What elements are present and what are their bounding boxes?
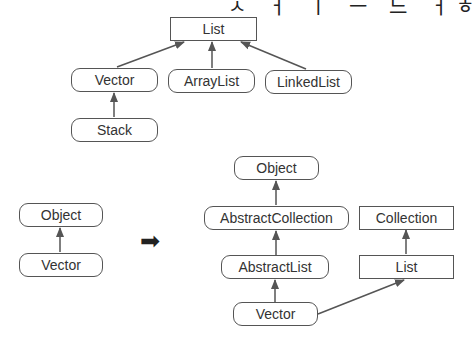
node-object-left: Object <box>19 203 103 227</box>
transform-arrow-icon: ➡ <box>140 229 160 253</box>
node-list-interface: List <box>170 17 257 41</box>
node-stack: Stack <box>71 118 158 142</box>
node-linkedlist: LinkedList <box>265 70 352 94</box>
cropped-heading: ㅅ ㅓ ㅣ ㅡ 느 ㅓㅎ, ㅎ ㅜ ㅎ <box>228 0 472 20</box>
node-object-right: Object <box>234 156 319 180</box>
node-vector-left: Vector <box>19 253 103 277</box>
node-vector: Vector <box>71 68 158 92</box>
node-list-interface-right: List <box>359 255 454 279</box>
node-vector-right: Vector <box>233 302 318 326</box>
node-abstractlist: AbstractList <box>221 255 329 279</box>
node-collection-interface: Collection <box>359 206 454 230</box>
node-arraylist: ArrayList <box>168 69 255 93</box>
node-abstractcollection: AbstractCollection <box>204 206 349 230</box>
